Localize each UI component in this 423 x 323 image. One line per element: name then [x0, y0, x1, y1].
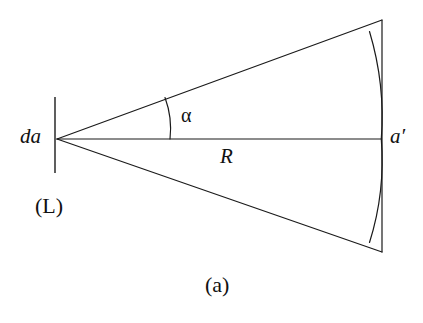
angle-arc: [165, 98, 171, 140]
target-area-label: a′: [390, 126, 405, 147]
spherical-cap-arc: [370, 32, 383, 243]
medium-label: (L): [35, 195, 63, 217]
source-area-label: da: [20, 126, 41, 147]
angle-label: α: [181, 105, 191, 125]
radius-label: R: [220, 146, 233, 167]
figure-container: da α R (L) a′ (a): [0, 0, 423, 323]
upper-ray-line: [57, 20, 382, 139]
figure-caption: (a): [205, 274, 229, 296]
